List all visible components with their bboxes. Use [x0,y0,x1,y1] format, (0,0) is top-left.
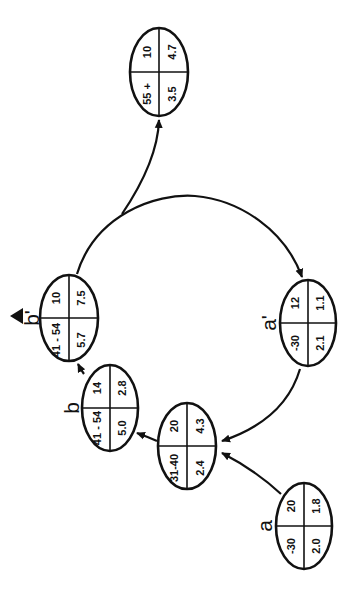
cell-top-right: 4.3 [194,418,206,433]
node-b: 41 - 54 14 2.8 5.0 [82,365,138,451]
cell-age: 41 - 54 [50,322,62,357]
cell-count: 20 [285,500,297,512]
cell-top-right: 1.1 [314,295,326,310]
node-a-prime: -30 12 1.1 2.1 [280,280,336,366]
label-a: a [253,520,276,532]
edge-31-40-to-b [137,433,157,441]
cell-age: 31-40 [168,454,180,482]
cell-bottom-right: 3.5 [166,86,178,101]
cell-top-right: 2.8 [116,380,128,395]
cell-top-right: 1.8 [310,498,322,513]
cell-age: 41 - 54 [91,410,103,445]
cell-bottom-right: 5.7 [75,332,87,347]
label-b-prime: b' [20,310,43,326]
cell-count: 10 [50,292,62,304]
node-b-prime: 41 - 54 10 7.5 5.7 [40,275,98,361]
cell-bottom-right: 5.0 [116,420,128,435]
cell-age: -30 [289,335,301,351]
node-a: -30 20 1.8 2.0 [276,483,332,569]
cell-bottom-right: 2.4 [194,459,206,475]
label-a-prime: a' [257,315,280,331]
cell-bottom-right: 2.0 [310,538,322,553]
label-b: b [60,402,83,414]
edge-a-prime-to-31-40 [222,369,300,441]
edge-b-prime-to-a-prime [77,196,302,277]
cell-count: 12 [289,297,301,309]
cell-bottom-right: 2.1 [314,335,326,350]
edge-b-to-b-prime [78,364,84,374]
edge-a-to-31-40 [222,453,281,494]
node-31-40: 31-40 20 4.3 2.4 [158,403,216,489]
cell-top-right: 4.7 [166,44,178,59]
cell-top-right: 7.5 [75,290,87,305]
cell-age: -30 [285,538,297,554]
node-55-plus: 55 + 10 4.7 3.5 [130,28,188,116]
flow-diagram: 55 + 10 4.7 3.5 41 - 54 10 7.5 5.7 b' -3… [0,0,344,589]
cell-count: 14 [91,381,103,394]
cell-age: 55 + [141,83,153,105]
cell-count: 10 [141,46,153,58]
cell-count: 20 [168,420,180,432]
